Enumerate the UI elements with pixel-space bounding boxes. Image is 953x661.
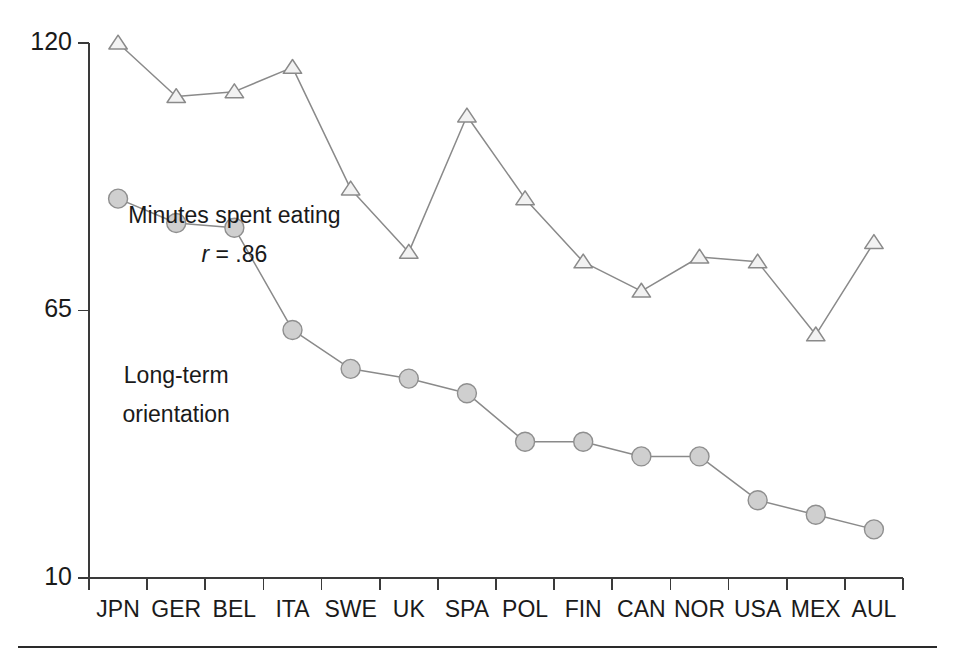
x-tick-label: FIN <box>565 596 602 622</box>
x-tick-label: GER <box>151 596 201 622</box>
data-point-circle <box>806 505 825 524</box>
data-point-circle <box>690 447 709 466</box>
x-tick-label: SWE <box>324 596 376 622</box>
data-point-circle <box>341 359 360 378</box>
x-axis-group: JPNGERBELITASWEUKSPAPOLFINCANNORUSAMEXAU… <box>89 578 903 622</box>
data-point-triangle <box>458 108 476 122</box>
x-tick-label: BEL <box>213 596 257 622</box>
data-point-triangle <box>690 249 708 263</box>
x-tick-label: MEX <box>791 596 841 622</box>
data-point-triangle <box>516 191 534 205</box>
x-tick-group <box>89 578 903 590</box>
data-point-triangle <box>865 235 883 249</box>
data-point-circle <box>864 520 883 539</box>
data-point-circle <box>632 447 651 466</box>
footer-divider <box>18 646 937 648</box>
x-tick-label: SPA <box>445 596 490 622</box>
annotation-correlation: r = .86 <box>201 241 267 267</box>
data-point-circle <box>516 432 535 451</box>
x-tick-label: ITA <box>275 596 310 622</box>
x-tick-label: AUL <box>852 596 897 622</box>
data-point-circle <box>283 320 302 339</box>
line-chart-canvas: 1065120 JPNGERBELITASWEUKSPAPOLFINCANNOR… <box>0 0 953 661</box>
y-tick-label: 10 <box>44 562 72 590</box>
x-tick-label-group: JPNGERBELITASWEUKSPAPOLFINCANNORUSAMEXAU… <box>96 596 896 622</box>
data-point-triangle <box>225 84 243 98</box>
annotation-eating-label: Minutes spent eating <box>128 202 340 228</box>
y-tick-label-group: 1065120 <box>30 27 72 590</box>
data-point-triangle <box>283 60 301 74</box>
x-tick-label: NOR <box>674 596 725 622</box>
x-tick-label: JPN <box>96 596 139 622</box>
series-line-minutes-spent-eating <box>118 43 874 335</box>
y-axis-group: 1065120 <box>30 27 89 590</box>
y-tick-group <box>78 43 89 578</box>
y-tick-label: 120 <box>30 27 72 55</box>
data-point-triangle <box>632 283 650 297</box>
data-point-triangle <box>341 181 359 195</box>
data-point-circle <box>574 432 593 451</box>
annotation-lto-label-line2: orientation <box>123 401 230 427</box>
annotation-lto-label-line1: Long-term <box>124 362 229 388</box>
x-tick-label: POL <box>502 596 548 622</box>
data-point-triangle <box>574 254 592 268</box>
y-tick-label: 65 <box>44 294 72 322</box>
data-point-triangle <box>109 35 127 49</box>
data-point-circle <box>748 491 767 510</box>
x-tick-label: CAN <box>617 596 666 622</box>
data-point-triangle <box>807 327 825 341</box>
x-tick-label: USA <box>734 596 782 622</box>
x-tick-label: UK <box>393 596 426 622</box>
series-markers-minutes-spent-eating <box>109 35 883 341</box>
data-point-circle <box>457 384 476 403</box>
data-point-circle <box>109 189 128 208</box>
chart-figure: 1065120 JPNGERBELITASWEUKSPAPOLFINCANNOR… <box>0 0 953 661</box>
data-point-triangle <box>400 244 418 258</box>
series-lines-group <box>118 43 874 529</box>
data-point-circle <box>399 369 418 388</box>
